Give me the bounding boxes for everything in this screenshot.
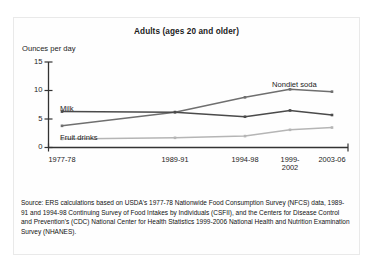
source-note: Source: ERS calculations based on USDA's… <box>21 198 351 236</box>
data-point-nondiet-soda-1994-98 <box>244 96 247 99</box>
x-tick-label-1989-91: 1989-91 <box>145 156 205 164</box>
data-point-fruit-drinks-1989-91 <box>174 137 177 140</box>
series-label-nondiet-soda: Nondiet soda <box>272 80 317 89</box>
y-tick-label-0: 0 <box>21 143 43 151</box>
data-point-fruit-drinks-1994-98 <box>244 135 247 138</box>
data-point-milk-2003-06 <box>331 114 334 117</box>
data-point-nondiet-soda-1977-78 <box>61 125 64 128</box>
series-line-fruit-drinks <box>62 128 332 139</box>
series-label-milk: Milk <box>60 104 74 113</box>
data-point-milk-1989-91 <box>174 111 177 114</box>
data-point-milk-1999-2002 <box>289 109 292 112</box>
data-point-milk-1994-98 <box>244 115 247 118</box>
y-tick-label-10: 10 <box>21 86 43 94</box>
x-tick-label-1977-78: 1977-78 <box>32 156 92 164</box>
data-point-nondiet-soda-2003-06 <box>331 90 334 93</box>
data-point-fruit-drinks-1999-2002 <box>289 129 292 132</box>
series-line-milk <box>62 110 332 116</box>
series-lines <box>62 89 332 139</box>
series-label-fruit-drinks: Fruit drinks <box>60 133 98 142</box>
y-tick-label-15: 15 <box>21 58 43 66</box>
series-line-nondiet-soda <box>62 89 332 125</box>
x-tick-label-2003-06: 2003-06 <box>302 156 362 164</box>
chart-figure: Adults (ages 20 and older) Ounces per da… <box>0 0 373 266</box>
y-tick-label-5: 5 <box>21 115 43 123</box>
data-point-fruit-drinks-2003-06 <box>331 126 334 129</box>
